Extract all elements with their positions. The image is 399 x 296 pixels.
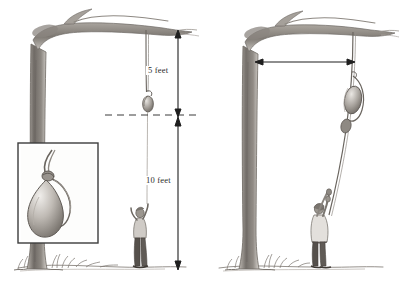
tree-branch-left: [31, 9, 199, 50]
person-right: [311, 189, 332, 268]
tree-branch-right: [243, 11, 399, 52]
panel-right: 10 feet: [205, 0, 399, 296]
pendulum-diagram: 5 feet 10 feet: [0, 0, 399, 296]
pendulum-bob-left: [143, 91, 154, 112]
dimension-arrow-10-feet-horizontal: [255, 59, 355, 65]
left-panel-artwork: [0, 0, 205, 296]
dimension-label-10-feet-vertical: 10 feet: [144, 176, 173, 185]
right-panel-artwork: [205, 0, 399, 296]
dimension-arrow-10-feet-vertical: [175, 117, 181, 270]
inset-detail-box: [18, 143, 98, 243]
dimension-label-5-feet: 5 feet: [146, 66, 170, 75]
dimension-arrow-5-feet: [175, 30, 181, 117]
tree-trunk-right: [225, 46, 275, 270]
person-left: [131, 204, 148, 268]
rope-lower-left: [147, 112, 148, 204]
panel-left: 5 feet 10 feet: [0, 0, 205, 296]
pendulum-rope-left: [146, 30, 149, 92]
